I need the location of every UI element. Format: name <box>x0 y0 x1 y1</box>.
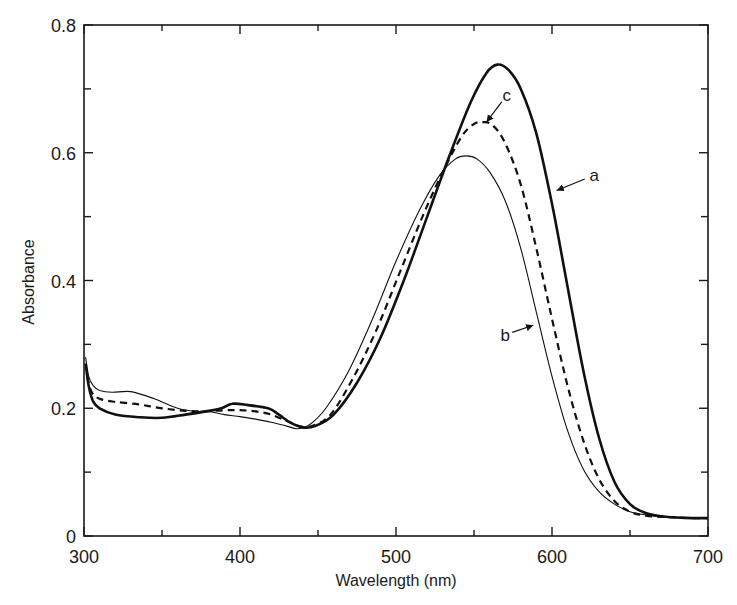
y-tick-label: 0.6 <box>51 144 76 164</box>
absorbance-spectrum-chart: 30040050060070000.20.40.60.8 abc Wavelen… <box>0 0 737 605</box>
annotation-arrow-a <box>557 179 585 190</box>
x-tick-label: 500 <box>381 547 411 567</box>
annotation-arrow-b <box>512 325 533 332</box>
x-axis-title: Wavelength (nm) <box>335 572 456 589</box>
x-tick-label: 300 <box>69 547 99 567</box>
y-tick-label: 0.8 <box>51 16 76 36</box>
x-tick-label: 700 <box>693 547 723 567</box>
x-tick-label: 600 <box>537 547 567 567</box>
annotation-label-b: b <box>500 326 509 345</box>
curve-b <box>86 156 708 518</box>
annotation-label-a: a <box>589 166 599 185</box>
x-tick-label: 400 <box>225 547 255 567</box>
y-tick-label: 0 <box>66 527 76 547</box>
y-axis-title: Absorbance <box>20 239 37 324</box>
curve-annotations: abc <box>486 86 599 345</box>
curve-a <box>86 65 708 519</box>
annotation-arrow-c <box>486 102 501 122</box>
annotation-label-c: c <box>503 86 512 105</box>
curve-c <box>87 122 708 518</box>
y-tick-label: 0.4 <box>51 272 76 292</box>
axis-ticks: 30040050060070000.20.40.60.8 <box>51 16 723 567</box>
data-series <box>86 65 708 519</box>
y-tick-label: 0.2 <box>51 399 76 419</box>
